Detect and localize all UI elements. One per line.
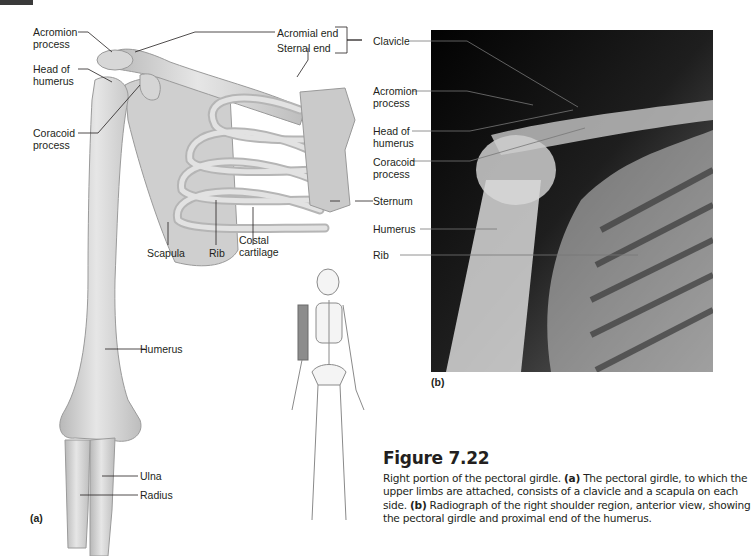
caption-a-tag: (a) (564, 472, 580, 484)
label-head-of-humerus-a: Head of humerus (33, 63, 74, 87)
label-acromial-end: Acromial end (277, 27, 338, 39)
label-rib-a: Rib (209, 247, 225, 259)
label-humerus-a: Humerus (140, 343, 183, 355)
label-clavicle: Clavicle (373, 35, 410, 47)
figure-title: Figure 7.22 (383, 448, 489, 468)
panel-a-tag: (a) (30, 512, 43, 524)
label-head-of-humerus-b: Head of humerus (373, 125, 414, 149)
caption-b-text: Radiograph of the right shoulder region,… (383, 499, 750, 524)
label-costal-cartilage: Costal cartilage (239, 234, 279, 258)
label-sternal-end: Sternal end (277, 42, 331, 54)
figure-caption: Right portion of the pectoral girdle. (a… (383, 472, 753, 525)
label-humerus-b: Humerus (373, 223, 416, 235)
label-scapula: Scapula (147, 247, 185, 259)
label-acromion-process-b: Acromion process (373, 85, 417, 109)
label-coracoid-process-a: Coracoid process (33, 127, 75, 151)
label-acromion-process-a: Acromion process (33, 26, 77, 50)
label-ulna: Ulna (140, 470, 162, 482)
caption-intro: Right portion of the pectoral girdle. (383, 472, 564, 484)
label-radius: Radius (140, 489, 173, 501)
label-sternum: Sternum (373, 195, 413, 207)
caption-b-tag: (b) (410, 499, 427, 511)
label-rib-b: Rib (373, 249, 389, 261)
label-coracoid-process-b: Coracoid process (373, 156, 415, 180)
panel-b-tag: (b) (431, 376, 444, 388)
